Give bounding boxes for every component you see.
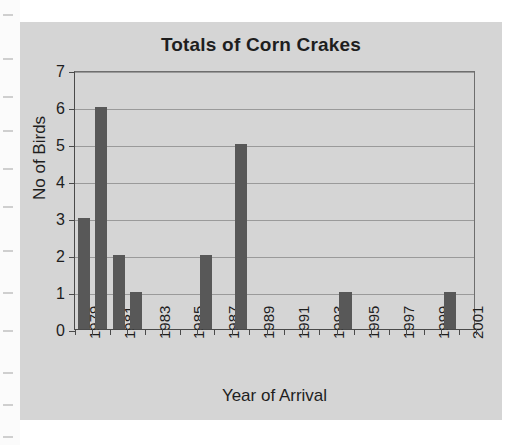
gridline <box>75 109 474 110</box>
scan-artifact-mark <box>3 130 13 132</box>
x-axis-tick <box>249 329 250 335</box>
scan-artifact-mark <box>3 404 13 406</box>
scan-artifact-mark <box>3 58 13 60</box>
x-axis-tick-label: 1995 <box>365 306 382 339</box>
scan-edge-margin <box>0 0 20 445</box>
y-axis-tick <box>69 146 75 147</box>
y-axis-tick-label: 4 <box>56 174 65 192</box>
y-axis-tick-label: 5 <box>56 137 65 155</box>
y-axis-tick <box>69 220 75 221</box>
scan-artifact-mark <box>3 436 13 438</box>
y-axis-tick <box>69 72 75 73</box>
x-axis-tick <box>354 329 355 335</box>
scan-artifact-mark <box>3 96 13 98</box>
x-axis-tick-label: 1997 <box>400 306 417 339</box>
y-axis-title: No of Birds <box>30 116 50 200</box>
bar <box>200 255 212 329</box>
scan-artifact-mark <box>3 206 13 208</box>
x-axis-tick <box>92 329 93 335</box>
chart-figure: Totals of Corn Crakes No of Birds 012345… <box>20 22 502 420</box>
y-axis-tick-label: 1 <box>56 285 65 303</box>
y-axis-tick-label: 2 <box>56 248 65 266</box>
bar <box>339 292 351 329</box>
y-axis-tick-label: 6 <box>56 100 65 118</box>
x-axis-tick <box>162 329 163 335</box>
x-axis-tick <box>197 329 198 335</box>
x-axis-tick <box>110 329 111 335</box>
x-axis-tick <box>371 329 372 335</box>
x-axis-tick <box>145 329 146 335</box>
scan-artifact-mark <box>3 330 13 332</box>
chart-title: Totals of Corn Crakes <box>20 34 502 56</box>
gridline <box>75 257 474 258</box>
x-axis-tick <box>441 329 442 335</box>
x-axis-tick <box>232 329 233 335</box>
x-axis-tick <box>180 329 181 335</box>
x-axis-tick-label: 1991 <box>295 306 312 339</box>
y-axis-tick-label: 3 <box>56 211 65 229</box>
bar <box>95 107 107 329</box>
x-axis-tick <box>337 329 338 335</box>
y-axis-tick <box>69 257 75 258</box>
y-axis-tick-label: 7 <box>56 63 65 81</box>
bar <box>235 144 247 329</box>
gridline <box>75 183 474 184</box>
x-axis-tick <box>476 329 477 335</box>
scan-artifact-mark <box>3 372 13 374</box>
gridline <box>75 146 474 147</box>
x-axis-tick-label: 2001 <box>469 306 486 339</box>
x-axis-tick <box>459 329 460 335</box>
x-axis-tick <box>75 329 76 335</box>
x-axis-tick-label: 1983 <box>156 306 173 339</box>
x-axis-tick <box>284 329 285 335</box>
gridline <box>75 72 474 73</box>
plot-area: 0123456719791981198319851987198919911993… <box>74 71 475 330</box>
bar <box>444 292 456 329</box>
bar <box>130 292 142 329</box>
x-axis-tick <box>302 329 303 335</box>
x-axis-tick-label: 1989 <box>260 306 277 339</box>
scan-artifact-mark <box>3 292 13 294</box>
y-axis-tick <box>69 183 75 184</box>
scan-artifact-mark <box>3 250 13 252</box>
y-axis-tick <box>69 294 75 295</box>
y-axis-tick-label: 0 <box>56 322 65 340</box>
x-axis-tick <box>406 329 407 335</box>
x-axis-title: Year of Arrival <box>74 386 475 406</box>
x-axis-tick <box>389 329 390 335</box>
y-axis-tick <box>69 109 75 110</box>
x-axis-tick <box>424 329 425 335</box>
x-axis-tick <box>214 329 215 335</box>
x-axis-tick <box>127 329 128 335</box>
gridline <box>75 220 474 221</box>
scan-artifact-mark <box>3 168 13 170</box>
scan-artifact-mark <box>3 14 13 16</box>
x-axis-tick <box>319 329 320 335</box>
x-axis-tick <box>267 329 268 335</box>
